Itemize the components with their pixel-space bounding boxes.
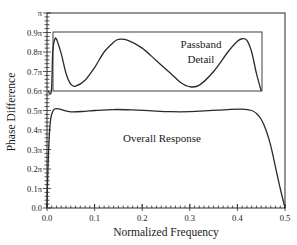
y-tick-label: 0.5π [27,106,43,116]
y-tick-label: 0.9π [27,28,43,38]
x-tick-label: 0.2 [137,213,148,223]
x-axis-title: Normalized Frequency [113,226,219,239]
y-tick-label: 0.6π [27,86,43,96]
detail-label: Detail [188,53,215,65]
x-tick-label: 0.3 [184,213,195,223]
y-axis-title: Phase Difference [5,73,17,152]
passband-label: Passband [181,38,222,50]
x-tick-label: 0.0 [42,213,53,223]
overall-response-curve [47,109,285,208]
y-tick-label: π [38,8,43,18]
x-axis-ticks: 0.00.10.20.30.40.5 [42,204,291,223]
y-tick-label: 0.2π [27,164,43,174]
x-tick-label: 0.5 [280,213,291,223]
phase-difference-chart: 0.00.1π0.2π0.3π0.4π0.5π0.6π0.7π0.8π0.9ππ… [0,0,297,245]
x-tick-label: 0.4 [232,213,243,223]
y-tick-label: 0.0 [31,203,42,213]
x-tick-label: 0.1 [89,213,100,223]
y-tick-label: 0.1π [27,184,43,194]
y-tick-label: 0.8π [27,47,43,57]
overall-response-label: Overall Response [123,132,201,144]
passband-detail-curve [48,38,261,94]
y-tick-label: 0.4π [27,125,43,135]
y-tick-label: 0.3π [27,145,43,155]
y-tick-label: 0.7π [27,67,43,77]
